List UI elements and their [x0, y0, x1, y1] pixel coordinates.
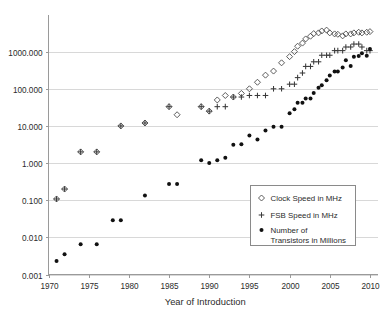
- data-point: [325, 78, 329, 82]
- data-point: [287, 81, 293, 87]
- data-point: [296, 101, 300, 105]
- x-axis-title: Year of Introduction: [165, 296, 246, 307]
- data-point: [143, 193, 147, 197]
- data-point: [356, 41, 362, 47]
- data-point: [271, 68, 277, 74]
- legend-label-fsb-speed: FSB Speed in MHz: [271, 211, 338, 220]
- data-point: [279, 60, 285, 66]
- data-point: [312, 91, 316, 95]
- data-point: [111, 218, 115, 222]
- data-point: [119, 218, 123, 222]
- data-point: [292, 107, 296, 111]
- data-point: [304, 96, 308, 100]
- data-point: [308, 64, 314, 70]
- x-tick-label-2000: 2000: [281, 282, 300, 291]
- data-point: [255, 138, 259, 142]
- data-point: [215, 158, 219, 162]
- data-point: [206, 108, 212, 114]
- data-point: [348, 44, 354, 50]
- y-tick-label-10.000: 10.000: [17, 123, 42, 132]
- data-point: [63, 252, 67, 256]
- data-point: [336, 70, 340, 74]
- data-point: [271, 86, 277, 92]
- data-point: [359, 44, 365, 50]
- data-point: [303, 64, 309, 70]
- data-point: [222, 92, 228, 98]
- data-point: [78, 149, 84, 155]
- data-point: [262, 72, 268, 78]
- data-point: [308, 96, 312, 100]
- data-point: [311, 59, 317, 65]
- data-point: [351, 41, 357, 47]
- x-tick-label-2005: 2005: [321, 282, 340, 291]
- data-point: [175, 182, 179, 186]
- data-point: [247, 134, 251, 138]
- data-point: [207, 161, 211, 165]
- data-point: [365, 54, 369, 58]
- data-point: [263, 129, 267, 133]
- legend-marker-transistor-count: [260, 228, 264, 232]
- data-point: [349, 64, 353, 68]
- data-point: [199, 158, 203, 162]
- data-point: [62, 186, 68, 192]
- data-point: [291, 49, 297, 55]
- data-point: [272, 125, 276, 129]
- data-point: [263, 93, 269, 99]
- data-point: [280, 125, 284, 129]
- data-point: [360, 51, 364, 55]
- data-point: [319, 52, 325, 58]
- data-point: [246, 86, 252, 92]
- data-point: [327, 30, 333, 36]
- data-point: [231, 94, 237, 100]
- data-point: [368, 47, 372, 51]
- data-point: [295, 75, 301, 81]
- data-point: [174, 112, 180, 118]
- data-point: [223, 156, 227, 160]
- series-fsb-speed: [54, 41, 373, 202]
- data-point: [292, 81, 298, 87]
- legend-label-clock-speed: Clock Speed in MHz: [271, 194, 343, 203]
- data-point: [247, 93, 253, 99]
- data-point: [357, 54, 361, 58]
- data-point: [328, 73, 332, 77]
- data-point: [327, 52, 333, 58]
- x-tick-label-1985: 1985: [160, 282, 179, 291]
- data-point: [198, 104, 204, 110]
- data-point: [255, 93, 261, 99]
- data-point: [344, 58, 348, 62]
- y-tick-label-1.000: 1.000: [22, 160, 43, 169]
- chart-container: 0.0010.0100.1001.00010.000100.0001000.00…: [0, 0, 390, 323]
- y-tick-label-100.000: 100.000: [13, 86, 43, 95]
- data-point: [300, 70, 306, 76]
- x-tick-label-1995: 1995: [240, 282, 259, 291]
- data-point: [166, 104, 172, 110]
- data-point: [167, 182, 171, 186]
- x-tick-label-1990: 1990: [200, 282, 219, 291]
- data-point: [95, 242, 99, 246]
- data-point: [341, 65, 345, 69]
- x-tick-label-1975: 1975: [80, 282, 99, 291]
- data-point: [295, 43, 301, 49]
- data-point: [214, 104, 220, 110]
- data-point: [239, 142, 243, 146]
- data-point: [142, 120, 148, 126]
- x-tick-label-2010: 2010: [361, 282, 380, 291]
- data-point: [352, 55, 356, 59]
- x-tick-label-1970: 1970: [40, 282, 59, 291]
- data-point: [316, 59, 322, 65]
- data-point: [55, 259, 59, 263]
- y-tick-label-0.001: 0.001: [22, 272, 43, 281]
- legend-label-transistor-count-line2: Transistors in Millions: [271, 236, 347, 245]
- data-point: [254, 79, 260, 85]
- data-point: [118, 123, 124, 129]
- data-point: [79, 242, 83, 246]
- y-tick-label-0.100: 0.100: [22, 197, 43, 206]
- data-point: [317, 86, 321, 90]
- legend-label-transistor-count: Number of: [271, 226, 309, 235]
- data-point: [279, 86, 285, 92]
- series-clock-speed: [54, 27, 373, 202]
- x-tick-label-1980: 1980: [120, 282, 139, 291]
- y-tick-label-1000.000: 1000.000: [8, 49, 43, 58]
- data-point: [287, 54, 293, 60]
- data-point: [320, 83, 324, 87]
